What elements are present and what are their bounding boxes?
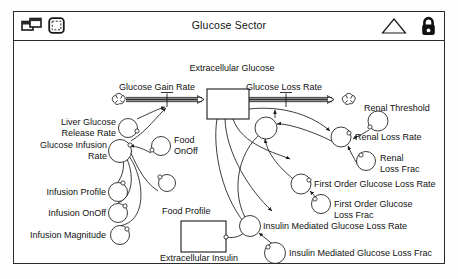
- label-extracellular-glucose: Extracellular Glucose: [182, 63, 282, 74]
- titlebar-right-icons: [381, 16, 436, 40]
- label-food-onoff-line2: OnOff: [174, 146, 198, 157]
- label-renal-loss-frac-line2: Loss Frac: [380, 164, 420, 175]
- flow-glucose-gain-rate[interactable]: [126, 93, 204, 108]
- label-glucose-loss-rate: Glucose Loss Rate: [246, 82, 322, 93]
- label-insulin-mediated-glucose-loss-frac: Insulin Mediated Glucose Loss Frac: [289, 248, 432, 259]
- padlock-icon[interactable]: [421, 16, 436, 40]
- var-food-onoff[interactable]: [152, 137, 171, 156]
- label-liver-glucose-release-rate-line2: Release Rate: [24, 128, 116, 139]
- label-glucose-infusion-rate-line1: Glucose Infusion: [14, 140, 107, 151]
- label-first-order-glucose-loss-frac-line1: First Order Glucose: [334, 199, 413, 210]
- stock-extracellular-glucose[interactable]: [207, 89, 249, 119]
- label-infusion-onoff: Infusion OnOff: [19, 208, 106, 219]
- label-infusion-magnitude: Infusion Magnitude: [14, 230, 106, 241]
- label-food-profile: Food Profile: [162, 206, 211, 217]
- var-insulin-mediated-glucose-loss-rate[interactable]: [240, 216, 261, 237]
- window-title: Glucose Sector: [14, 19, 444, 31]
- stock-extracellular-insulin[interactable]: [181, 221, 226, 252]
- cloud-source-left: [112, 93, 125, 104]
- label-extracellular-insulin: Extracellular Insulin: [160, 253, 238, 263]
- label-food-onoff-line1: Food: [174, 135, 195, 146]
- screenshot-root: Glucose Sector: [0, 0, 458, 279]
- label-renal-loss-frac-line1: Renal: [380, 153, 404, 164]
- label-infusion-profile: Infusion Profile: [19, 187, 106, 198]
- triangle-up-icon[interactable]: [381, 17, 407, 39]
- var-infusion-profile[interactable]: [109, 183, 128, 202]
- label-glucose-gain-rate: Glucose Gain Rate: [119, 82, 195, 93]
- label-liver-glucose-release-rate-line1: Liver Glucose: [24, 117, 116, 128]
- label-glucose-infusion-rate-line2: Rate: [14, 151, 107, 162]
- window-titlebar: Glucose Sector: [14, 12, 444, 41]
- var-liver-glucose-release-rate[interactable]: [119, 119, 138, 138]
- var-renal-loss-rate[interactable]: [331, 127, 351, 147]
- label-first-order-glucose-loss-frac-line2: Loss Frac: [334, 210, 374, 221]
- label-renal-threshold: Renal Threshold: [364, 103, 430, 114]
- var-first-order-glucose-loss-rate[interactable]: [291, 174, 311, 194]
- var-glucose-loss-driver[interactable]: [255, 117, 277, 139]
- sector-window: Glucose Sector: [13, 11, 445, 264]
- label-insulin-mediated-glucose-loss-rate: Insulin Mediated Glucose Loss Rate: [263, 221, 407, 232]
- label-renal-loss-rate: Renal Loss Rate: [355, 132, 422, 143]
- diagram-canvas[interactable]: Extracellular Glucose Glucose Gain Rate …: [14, 41, 444, 263]
- var-glucose-infusion-rate[interactable]: [109, 140, 132, 163]
- label-first-order-glucose-loss-rate: First Order Glucose Loss Rate: [314, 179, 436, 190]
- flow-glucose-loss-rate[interactable]: [248, 93, 334, 108]
- cloud-sink-right: [342, 93, 355, 104]
